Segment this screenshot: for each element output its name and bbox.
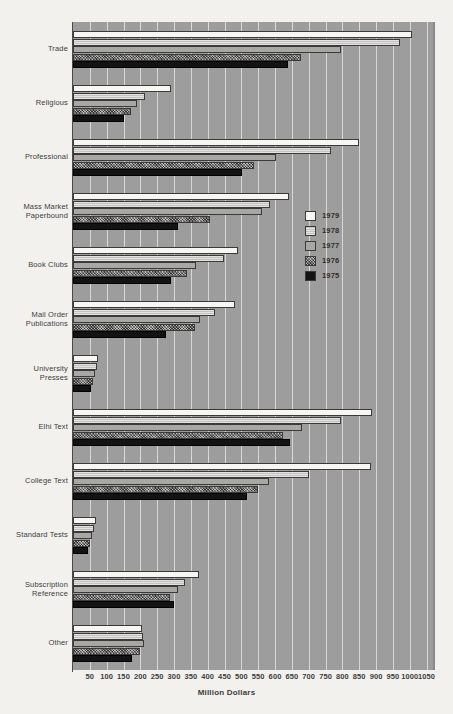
x-tick-50: 50 [86,672,95,681]
bar-1977 [73,370,95,377]
y-axis-category-labels: TradeReligiousProfessionalMass Market Pa… [0,22,68,670]
x-tick-600: 600 [269,672,282,681]
legend-swatch-icon-1979 [305,211,316,221]
bar-1976 [73,486,258,493]
y-axis-label-subscription-reference: Subscription Reference [0,580,68,599]
bar-1977 [73,208,262,215]
legend-label: 1977 [322,241,340,250]
bar-1979 [73,31,412,38]
bar-1976 [73,594,170,601]
bar-1979 [73,247,238,254]
y-axis-label-elhi-text: Elhi Text [0,422,68,432]
bar-1979 [73,193,289,200]
x-axis-title: Million Dollars [0,688,453,697]
bar-group [73,409,435,447]
x-tick-850: 850 [353,672,366,681]
x-tick-300: 300 [168,672,181,681]
bar-1979 [73,301,235,308]
bar-1978 [73,147,331,154]
bar-group [73,31,435,69]
bar-1978 [73,255,224,262]
bar-chart: TradeReligiousProfessionalMass Market Pa… [0,0,453,714]
bar-group [73,247,435,285]
legend-item-1978[interactable]: 1978 [305,224,365,237]
x-tick-150: 150 [117,672,130,681]
legend-item-1977[interactable]: 1977 [305,239,365,252]
legend-label: 1978 [322,226,340,235]
bar-1975 [73,601,174,608]
legend-item-1979[interactable]: 1979 [305,209,365,222]
y-axis-label-professional: Professional [0,152,68,162]
bar-1975 [73,547,88,554]
x-tick-200: 200 [134,672,147,681]
legend-label: 1979 [322,211,340,220]
bar-1975 [73,115,124,122]
legend-item-1976[interactable]: 1976 [305,254,365,267]
x-tick-1000: 1000 [401,672,418,681]
x-tick-900: 900 [370,672,383,681]
bar-1975 [73,169,242,176]
bar-1977 [73,100,137,107]
bar-1975 [73,277,171,284]
bar-1978 [73,309,215,316]
bar-1976 [73,432,283,439]
legend-swatch-icon-1976 [305,256,316,266]
legend-swatch-icon-1977 [305,241,316,251]
bar-1978 [73,579,185,586]
bar-1975 [73,439,290,446]
bar-1976 [73,162,254,169]
x-tick-500: 500 [235,672,248,681]
bar-1979 [73,355,98,362]
x-axis-ticks: 5010015020025030035040045050055060065070… [73,670,435,684]
bar-1976 [73,54,301,61]
bar-group [73,517,435,555]
x-tick-650: 650 [285,672,298,681]
y-axis-label-mail-order-publications: Mail Order Publications [0,310,68,329]
legend-item-1975[interactable]: 1975 [305,269,365,282]
bar-1979 [73,625,142,632]
x-tick-750: 750 [319,672,332,681]
y-axis-label-mass-market-paperbound: Mass Market Paperbound [0,202,68,221]
bar-1976 [73,648,140,655]
legend-label: 1976 [322,256,340,265]
y-axis-label-standard-tests: Standard Tests [0,530,68,540]
x-tick-700: 700 [302,672,315,681]
bar-1979 [73,409,372,416]
x-tick-350: 350 [184,672,197,681]
bar-1976 [73,378,93,385]
x-tick-950: 950 [386,672,399,681]
bar-1979 [73,571,199,578]
bar-1979 [73,517,96,524]
y-axis-label-college-text: College Text [0,476,68,486]
y-axis-label-trade: Trade [0,44,68,54]
bar-1975 [73,61,288,68]
bar-1976 [73,540,90,547]
bar-1977 [73,154,276,161]
bar-1978 [73,525,94,532]
bar-1976 [73,270,187,277]
bar-group [73,355,435,393]
bar-1976 [73,216,210,223]
y-axis-label-university-presses: University Presses [0,364,68,383]
bar-1979 [73,85,171,92]
legend-swatch-icon-1978 [305,226,316,236]
bar-1978 [73,633,143,640]
bar-1977 [73,586,178,593]
bar-1975 [73,655,132,662]
bar-group [73,193,435,231]
bar-group [73,463,435,501]
bar-1978 [73,201,270,208]
y-axis-line [72,22,73,672]
x-tick-250: 250 [151,672,164,681]
bar-1979 [73,463,371,470]
bar-1977 [73,262,196,269]
bar-group [73,301,435,339]
x-tick-450: 450 [218,672,231,681]
bar-group [73,139,435,177]
bar-1978 [73,363,97,370]
bar-1978 [73,93,145,100]
y-axis-label-book-clubs: Book Clubs [0,260,68,270]
bar-group [73,571,435,609]
x-tick-400: 400 [201,672,214,681]
bar-1975 [73,385,91,392]
